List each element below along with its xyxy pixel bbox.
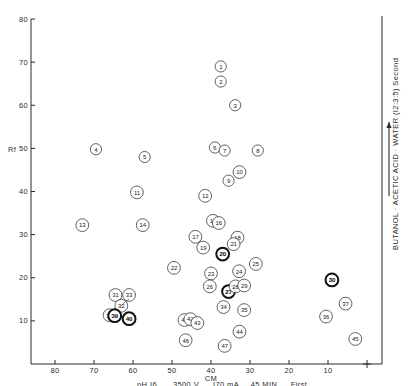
spot-number: 45 bbox=[352, 336, 359, 342]
x-tick-label-50: 50 bbox=[168, 366, 177, 375]
data-point-34[interactable]: 34 bbox=[217, 301, 230, 314]
x-tick-label-70: 70 bbox=[90, 366, 99, 375]
y-tick-label-30: 30 bbox=[19, 230, 28, 239]
data-point-47[interactable]: 47 bbox=[218, 339, 231, 352]
spot-number: 10 bbox=[236, 169, 243, 175]
spot-number: 43 bbox=[194, 320, 201, 326]
data-point-5[interactable]: 5 bbox=[139, 151, 150, 162]
spot-number: 20 bbox=[219, 251, 226, 257]
spot-number: 36 bbox=[323, 314, 330, 320]
data-point-25[interactable]: 25 bbox=[249, 258, 262, 271]
data-point-19[interactable]: 19 bbox=[197, 241, 210, 254]
spot-number: 23 bbox=[208, 271, 215, 277]
y-tick-label-50: 50 bbox=[19, 144, 28, 153]
data-point-26[interactable]: 26 bbox=[203, 280, 216, 293]
chromatography-map-chart: 10203040506070808070605040302010RfCM 123… bbox=[0, 0, 413, 386]
spot-number: 35 bbox=[241, 307, 248, 313]
spot-number: 47 bbox=[221, 343, 228, 349]
y-tick-label-80: 80 bbox=[19, 15, 28, 24]
spot-number: 46 bbox=[182, 338, 189, 344]
spot-number: 26 bbox=[207, 284, 214, 290]
spot-number: 19 bbox=[200, 245, 207, 251]
data-point-13[interactable]: 13 bbox=[76, 219, 89, 232]
spot-number: 11 bbox=[134, 190, 141, 196]
spot-number: 31 bbox=[112, 292, 119, 298]
run-condition-4: First bbox=[291, 380, 308, 386]
data-point-9[interactable]: 9 bbox=[223, 175, 234, 186]
data-point-2[interactable]: 2 bbox=[215, 76, 226, 87]
data-point-17[interactable]: 17 bbox=[189, 230, 202, 243]
data-point-8[interactable]: 8 bbox=[252, 145, 263, 156]
x-tick-label-20: 20 bbox=[285, 366, 294, 375]
data-point-33[interactable]: 33 bbox=[123, 289, 136, 302]
run-condition-0: pH I6 bbox=[137, 380, 157, 386]
spot-number: 24 bbox=[236, 269, 243, 275]
data-point-35[interactable]: 35 bbox=[238, 304, 251, 317]
data-point-24[interactable]: 24 bbox=[233, 265, 246, 278]
y-tick-label-10: 10 bbox=[19, 316, 28, 325]
y-tick-label-20: 20 bbox=[19, 273, 28, 282]
spot-number: 21 bbox=[230, 241, 237, 247]
data-point-11[interactable]: 11 bbox=[131, 186, 144, 199]
data-point-16[interactable]: 16 bbox=[212, 217, 225, 230]
data-point-21[interactable]: 21 bbox=[227, 238, 240, 251]
solvent-system-label: BUTANOL · ACETIC ACID · WATER (I2:3:5) S… bbox=[391, 58, 400, 250]
data-point-30[interactable]: 30 bbox=[326, 274, 339, 287]
x-tick-label-60: 60 bbox=[129, 366, 138, 375]
data-point-22[interactable]: 22 bbox=[168, 261, 181, 274]
data-point-45[interactable]: 45 bbox=[349, 333, 362, 346]
x-tick-label-10: 10 bbox=[324, 366, 333, 375]
y-axis-title: Rf bbox=[8, 145, 17, 154]
spot-number: 22 bbox=[171, 265, 178, 271]
spot-number: 30 bbox=[329, 277, 336, 283]
data-point-39[interactable]: 39 bbox=[108, 309, 121, 322]
spot-number: 39 bbox=[111, 313, 118, 319]
run-condition-3: 45 MIN bbox=[251, 380, 278, 386]
spot-number: 13 bbox=[79, 222, 86, 228]
data-point-1[interactable]: 1 bbox=[215, 61, 226, 72]
data-point-23[interactable]: 23 bbox=[205, 267, 218, 280]
spot-number: 40 bbox=[126, 316, 133, 322]
spot-number: 32 bbox=[118, 303, 125, 309]
y-tick-label-40: 40 bbox=[19, 187, 28, 196]
spot-number: 33 bbox=[126, 292, 133, 298]
spot-number: 17 bbox=[192, 234, 199, 240]
y-tick-label-70: 70 bbox=[19, 58, 28, 67]
run-condition-2: I70 mA bbox=[213, 380, 239, 386]
data-point-37[interactable]: 37 bbox=[339, 297, 352, 310]
data-point-12[interactable]: 12 bbox=[199, 189, 212, 202]
x-tick-label-80: 80 bbox=[51, 366, 60, 375]
data-point-3[interactable]: 3 bbox=[230, 100, 241, 111]
y-tick-label-60: 60 bbox=[19, 101, 28, 110]
x-tick-label-30: 30 bbox=[246, 366, 255, 375]
data-point-40[interactable]: 40 bbox=[123, 312, 136, 325]
run-condition-1: 3500 V bbox=[173, 380, 199, 386]
data-point-36[interactable]: 36 bbox=[320, 310, 333, 323]
data-point-29[interactable]: 29 bbox=[238, 279, 251, 292]
data-point-14[interactable]: 14 bbox=[136, 219, 149, 232]
data-point-10[interactable]: 10 bbox=[233, 166, 246, 179]
data-point-44[interactable]: 44 bbox=[233, 325, 246, 338]
spot-number: 44 bbox=[236, 329, 243, 335]
data-point-20[interactable]: 20 bbox=[216, 248, 229, 261]
spot-number: 29 bbox=[241, 283, 248, 289]
data-point-7[interactable]: 7 bbox=[219, 145, 230, 156]
spot-number: 14 bbox=[140, 222, 147, 228]
data-points-layer: 1234567891011121314151617181920212223242… bbox=[76, 61, 362, 352]
spot-number: 34 bbox=[220, 304, 227, 310]
spot-number: 37 bbox=[342, 301, 349, 307]
spot-number: 16 bbox=[216, 220, 223, 226]
plot-area: 10203040506070808070605040302010RfCM 123… bbox=[0, 0, 413, 386]
spot-number: 25 bbox=[253, 261, 260, 267]
data-point-43[interactable]: 43 bbox=[191, 317, 204, 330]
data-point-46[interactable]: 46 bbox=[179, 334, 192, 347]
data-point-4[interactable]: 4 bbox=[90, 144, 101, 155]
spot-number: 12 bbox=[202, 193, 209, 199]
